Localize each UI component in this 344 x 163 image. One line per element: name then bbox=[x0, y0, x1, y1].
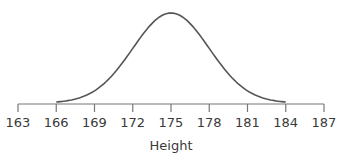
normal-distribution-chart: 163166169172175178181184187 Height bbox=[0, 0, 344, 163]
x-tick-label: 172 bbox=[120, 115, 145, 130]
x-tick-label: 178 bbox=[197, 115, 222, 130]
x-tick-label: 163 bbox=[6, 115, 31, 130]
x-tick-label: 184 bbox=[273, 115, 298, 130]
x-axis bbox=[18, 104, 324, 112]
bell-curve bbox=[56, 13, 286, 102]
x-tick-label: 181 bbox=[235, 115, 260, 130]
x-tick-label: 187 bbox=[312, 115, 337, 130]
x-tick-label: 166 bbox=[44, 115, 69, 130]
x-tick-label: 175 bbox=[159, 115, 184, 130]
x-axis-label: Height bbox=[150, 138, 193, 153]
x-tick-label: 169 bbox=[82, 115, 107, 130]
x-tick-labels: 163166169172175178181184187 bbox=[6, 115, 337, 130]
